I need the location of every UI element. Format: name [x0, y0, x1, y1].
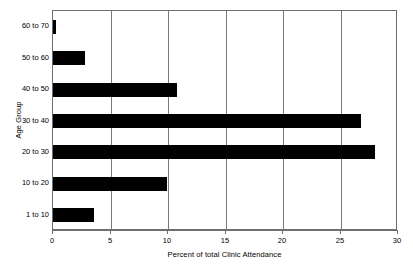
bar	[53, 208, 94, 222]
y-axis-tick-label: 20 to 30	[3, 147, 49, 156]
y-axis-tick-label: 30 to 40	[3, 116, 49, 125]
x-axis-tick	[225, 230, 226, 234]
x-axis-tick-label: 20	[270, 236, 294, 245]
y-axis-tick-label: 10 to 20	[3, 178, 49, 187]
x-axis-tick-label: 0	[40, 236, 64, 245]
x-axis-tick	[167, 230, 168, 234]
bar-chart: Age Group 1 to 1010 to 2020 to 3030 to 4…	[0, 0, 413, 269]
x-axis-tick	[110, 230, 111, 234]
x-axis-tick-label: 5	[98, 236, 122, 245]
bars	[53, 11, 396, 229]
y-axis-tick-labels: 1 to 1010 to 2020 to 3030 to 4040 to 505…	[0, 10, 49, 230]
x-axis-tick-label: 15	[213, 236, 237, 245]
x-axis-tick-label: 25	[328, 236, 352, 245]
bar	[53, 51, 85, 65]
x-axis-tick-label: 30	[385, 236, 409, 245]
plot-area	[52, 10, 397, 230]
x-axis-tick-label: 10	[155, 236, 179, 245]
x-axis-tick	[397, 230, 398, 234]
x-axis-tick	[340, 230, 341, 234]
bar	[53, 177, 167, 191]
y-axis-tick-label: 50 to 60	[3, 53, 49, 62]
y-axis-tick-label: 1 to 10	[3, 210, 49, 219]
x-axis-tick	[52, 230, 53, 234]
bar	[53, 20, 56, 34]
y-axis-tick-label: 40 to 50	[3, 84, 49, 93]
bar	[53, 145, 375, 159]
x-axis-title: Percent of total Clinic Attendance	[52, 250, 397, 259]
bar	[53, 114, 361, 128]
x-axis-tick	[282, 230, 283, 234]
bar	[53, 83, 177, 97]
y-axis-tick-label: 60 to 70	[3, 21, 49, 30]
